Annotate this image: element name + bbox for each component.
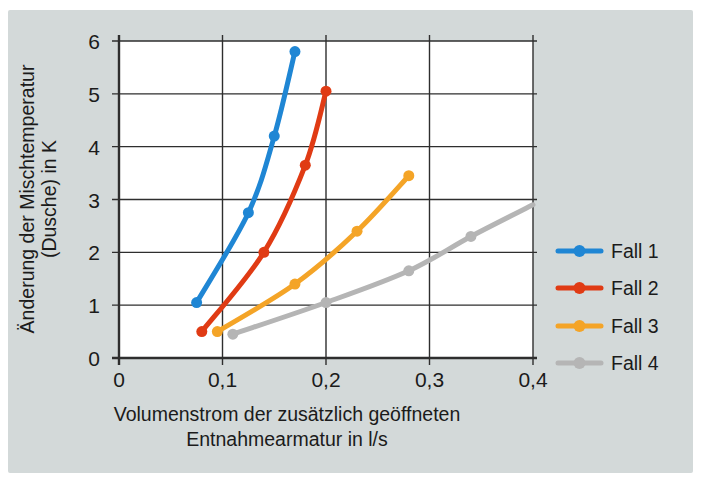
legend-label: Fall 2 bbox=[611, 277, 659, 299]
chart-svg: 00,10,20,30,40123456Volumenstrom der zus… bbox=[0, 0, 701, 483]
series-marker-fall-2 bbox=[196, 326, 207, 337]
x-tick-label: 0,4 bbox=[518, 368, 548, 391]
series-marker-fall-2 bbox=[258, 247, 269, 258]
legend-swatch-dot bbox=[574, 320, 586, 332]
series-marker-fall-1 bbox=[289, 46, 300, 57]
series-marker-fall-4 bbox=[227, 329, 238, 340]
figure: 00,10,20,30,40123456Volumenstrom der zus… bbox=[0, 0, 701, 483]
series-marker-fall-3 bbox=[289, 279, 300, 290]
y-tick-label: 6 bbox=[88, 30, 100, 53]
series-marker-fall-3 bbox=[212, 326, 223, 337]
legend-swatch-dot bbox=[574, 245, 586, 257]
series-marker-fall-4 bbox=[321, 297, 332, 308]
legend-label: Fall 1 bbox=[611, 240, 659, 262]
x-tick-label: 0,2 bbox=[311, 368, 340, 391]
x-tick-label: 0 bbox=[113, 368, 125, 391]
legend-label: Fall 3 bbox=[611, 315, 659, 337]
y-tick-label: 2 bbox=[88, 241, 100, 264]
y-tick-label: 3 bbox=[88, 189, 100, 212]
series-marker-fall-2 bbox=[321, 86, 332, 97]
series-marker-fall-1 bbox=[191, 297, 202, 308]
legend-swatch-dot bbox=[574, 282, 586, 294]
series-marker-fall-2 bbox=[300, 160, 311, 171]
x-tick-label: 0,1 bbox=[208, 368, 237, 391]
y-tick-label: 5 bbox=[88, 83, 100, 106]
series-marker-fall-3 bbox=[403, 170, 414, 181]
y-tick-label: 0 bbox=[88, 347, 100, 370]
series-marker-fall-1 bbox=[243, 207, 254, 218]
series-marker-fall-4 bbox=[465, 231, 476, 242]
series-marker-fall-4 bbox=[403, 265, 414, 276]
legend-label: Fall 4 bbox=[611, 352, 659, 374]
series-marker-fall-1 bbox=[269, 131, 280, 142]
series-marker-fall-3 bbox=[352, 226, 363, 237]
x-tick-label: 0,3 bbox=[415, 368, 444, 391]
legend-swatch-dot bbox=[574, 357, 586, 369]
y-tick-label: 4 bbox=[88, 136, 100, 159]
y-tick-label: 1 bbox=[88, 294, 100, 317]
